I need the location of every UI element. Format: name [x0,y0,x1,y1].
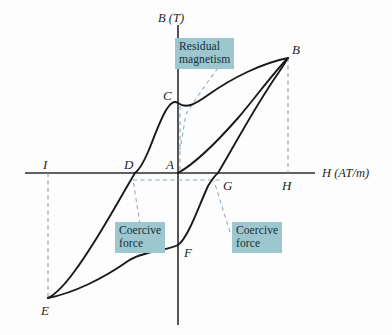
point-label-d: D [123,157,134,172]
point-label-a: A [165,157,174,172]
point-label-i: I [42,157,48,172]
curve-initial-magnetization [178,58,288,173]
point-label-e: E [40,303,49,318]
b-axis-label: B (T) [158,11,184,25]
leader-line-coercive-left [133,180,140,224]
leader-line-residual-magnetism [180,68,218,150]
point-label-c: C [163,88,172,103]
callout-coercive-force-left: Coercive force [115,222,165,253]
point-label-h: H [281,178,292,193]
point-label-f: F [183,245,193,260]
h-axis-label: H (AT/m) [321,166,369,180]
point-label-b: B [292,42,300,57]
point-label-g: G [223,178,233,193]
callout-residual-magnetism: Residual magnetism [175,38,234,69]
callout-coercive-force-right: Coercive force [232,222,282,253]
